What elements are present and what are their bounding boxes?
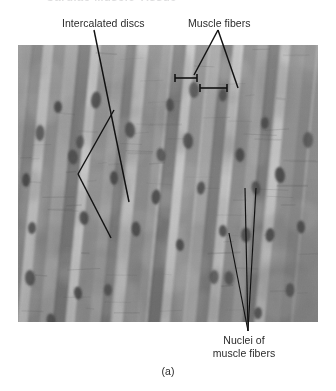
figure-root: Cardiac Muscle Tissue bbox=[0, 0, 336, 391]
annotation-label-intercalated-discs: Intercalated discs bbox=[62, 17, 145, 30]
annotation-label-nuclei-line2: muscle fibers bbox=[196, 347, 292, 360]
annotation-label-nuclei: Nuclei of muscle fibers bbox=[196, 334, 292, 359]
cutoff-header-text: Cardiac Muscle Tissue bbox=[46, 0, 246, 5]
annotation-label-muscle-fibers: Muscle fibers bbox=[188, 17, 251, 30]
annotation-label-nuclei-line1: Nuclei of bbox=[196, 334, 292, 347]
micrograph-image bbox=[18, 45, 318, 322]
cutoff-header-label: Cardiac Muscle Tissue bbox=[46, 0, 177, 3]
figure-caption: (a) bbox=[0, 365, 336, 377]
micrograph-canvas bbox=[18, 45, 318, 322]
micrograph-noise bbox=[18, 45, 318, 322]
